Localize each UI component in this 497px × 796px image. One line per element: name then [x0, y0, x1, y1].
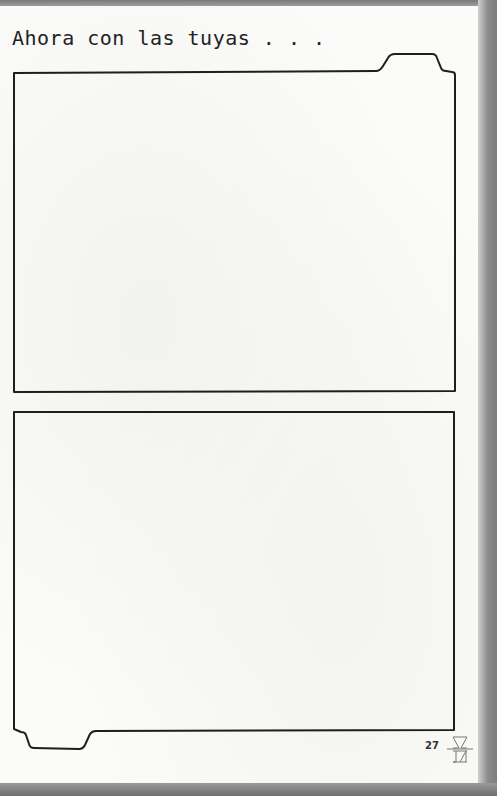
- publisher-monogram-icon: [447, 734, 473, 764]
- drawing-frames: [0, 0, 497, 796]
- upper-drawing-frame[interactable]: [14, 54, 455, 392]
- page-number: 27: [425, 740, 439, 751]
- lower-drawing-frame[interactable]: [14, 412, 454, 749]
